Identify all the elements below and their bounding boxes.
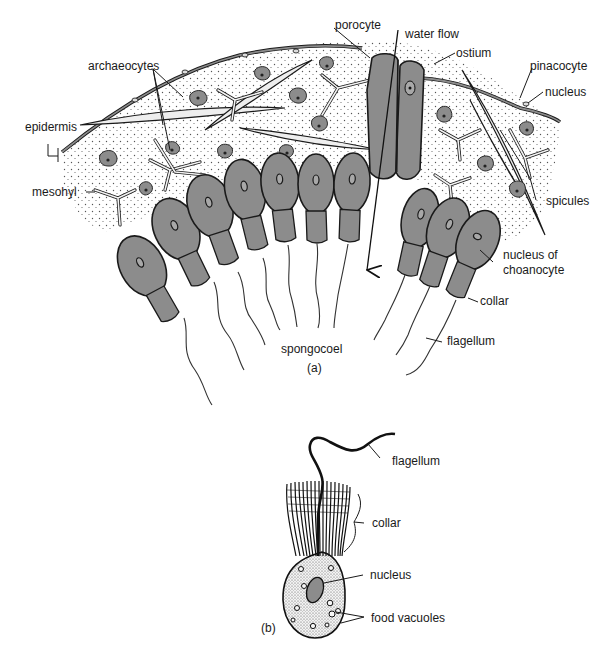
label-spongocoel: spongocoel [281, 342, 342, 356]
label-water-flow: water flow [404, 27, 459, 41]
label-pinacocyte: pinacocyte [530, 59, 588, 73]
caption-a: (a) [307, 361, 322, 375]
label-b-food-vacuoles: food vacuoles [371, 611, 445, 625]
caption-b: (b) [261, 621, 276, 635]
panel-b: flagellum collar nucleus food vacuoles (… [261, 434, 445, 638]
panel-a: archaeocytes epidermis mesohyl porocyte … [25, 18, 589, 405]
label-nucleus-of-choanocyte-2: choanocyte [503, 263, 565, 277]
label-collar: collar [480, 294, 509, 308]
label-epidermis: epidermis [25, 120, 77, 134]
label-b-nucleus: nucleus [370, 568, 411, 582]
label-flagellum: flagellum [447, 334, 495, 348]
label-mesohyl: mesohyl [32, 185, 77, 199]
label-b-collar: collar [372, 516, 401, 530]
sponge-anatomy-diagram: archaeocytes epidermis mesohyl porocyte … [0, 0, 610, 646]
porocyte [367, 54, 424, 180]
label-spicules: spicules [546, 194, 589, 208]
label-porocyte: porocyte [335, 18, 381, 32]
label-ostium: ostium [456, 46, 491, 60]
label-b-flagellum: flagellum [392, 454, 440, 468]
label-pinacocyte-nucleus: nucleus [545, 85, 586, 99]
label-nucleus-of-choanocyte: nucleus of [503, 248, 558, 262]
label-archaeocytes: archaeocytes [88, 59, 159, 73]
